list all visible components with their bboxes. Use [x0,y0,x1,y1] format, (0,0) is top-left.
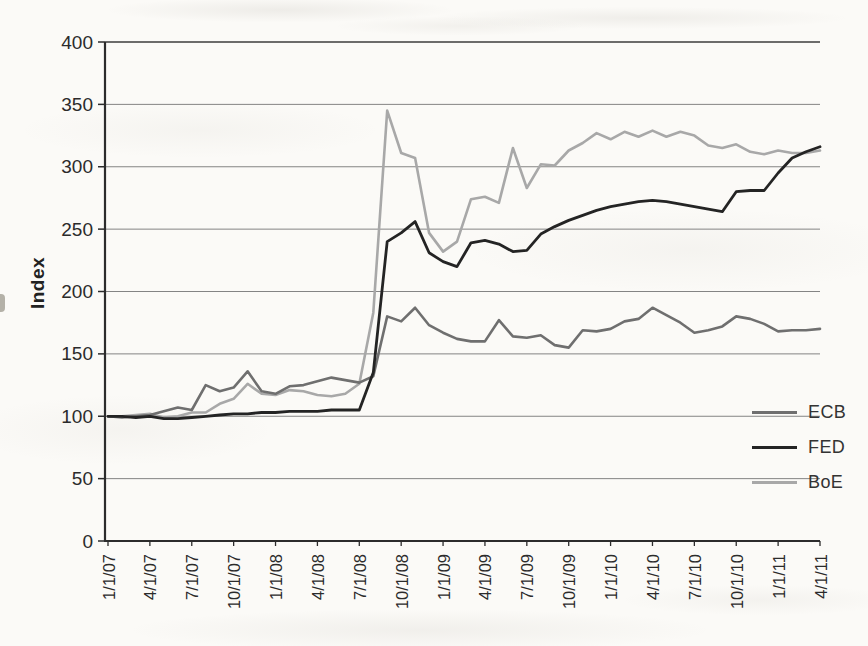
y-axis-label: 300 [61,156,93,177]
ecb-line-swatch [752,411,797,414]
chart-legend: ECB FED BoE [752,401,846,493]
y-axis-label: 50 [72,468,93,489]
y-axis-title: Index [27,213,49,353]
y-axis-label: 400 [61,32,93,53]
ecb-series-line [108,308,820,418]
legend-entry-ecb: ECB [752,401,846,423]
scanned-chart-page: 0501001502002503003504001/1/074/1/077/1/… [0,0,868,646]
y-axis-label: 100 [61,406,93,427]
legend-label-fed: FED [808,437,845,458]
boe-line-swatch [752,481,797,484]
x-axis-label: 7/1/09 [518,554,536,600]
x-axis-label: 4/1/08 [309,554,327,600]
legend-label-boe: BoE [808,472,843,493]
x-axis-label: 10/1/10 [728,554,746,609]
legend-entry-fed: FED [752,436,846,458]
x-axis-label: 10/1/09 [560,554,578,609]
x-axis-label: 1/1/07 [100,554,118,600]
x-axis-label: 1/1/10 [602,554,620,600]
x-axis-label: 1/1/11 [770,554,788,599]
fed-series-line [108,147,820,419]
y-axis-label: 0 [82,531,93,552]
x-axis-label: 7/1/10 [686,554,704,600]
x-axis-label: 4/1/07 [141,554,159,600]
x-axis-label: 7/1/07 [183,554,201,600]
fed-line-swatch [752,446,797,449]
legend-label-ecb: ECB [808,402,846,423]
x-axis-label: 4/1/10 [644,554,662,600]
y-axis-label: 150 [61,343,93,364]
legend-entry-boe: BoE [752,471,846,493]
y-axis-label: 200 [61,281,93,302]
x-axis-label: 1/1/09 [435,554,453,600]
x-axis-label: 4/1/09 [476,554,494,600]
line-chart-svg: 0501001502002503003504001/1/074/1/077/1/… [0,0,868,646]
boe-series-line [108,111,820,418]
x-axis-label: 10/1/07 [225,554,243,609]
x-axis-label: 10/1/08 [393,554,411,609]
y-axis-label: 350 [61,94,93,115]
x-axis-label: 7/1/08 [351,554,369,600]
x-axis-label: 1/1/08 [267,554,285,600]
x-axis-label: 4/1/11 [812,554,830,599]
y-axis-label: 250 [61,219,93,240]
